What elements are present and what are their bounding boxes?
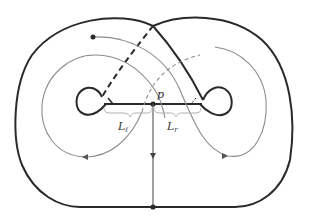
figure-eight-diagram [0, 0, 309, 223]
label-p: p [157, 89, 164, 100]
left-brace [104, 108, 152, 117]
hidden-arc-left [102, 26, 153, 97]
outer-contour-right [153, 18, 292, 207]
label-L-right: Lr [167, 121, 178, 134]
label-p-text: p [157, 88, 164, 101]
right-loop [200, 87, 232, 115]
outer-contour-left [15, 18, 153, 207]
bottom-dot [150, 204, 155, 209]
orbit-start-dot [91, 35, 96, 40]
orbit-from-dot [93, 37, 266, 156]
left-orbit-arrow-icon [82, 154, 88, 160]
label-L-left-sub: ℓ [125, 126, 128, 134]
vertical-arrow-icon [150, 153, 156, 159]
diagram-canvas: p Lℓ Lr [0, 0, 309, 223]
label-L-right-sub: r [174, 126, 177, 134]
right-orbit-arrow-icon [222, 153, 228, 159]
left-loop [77, 88, 107, 115]
label-L-left: Lℓ [118, 121, 128, 134]
right-brace [154, 108, 201, 117]
